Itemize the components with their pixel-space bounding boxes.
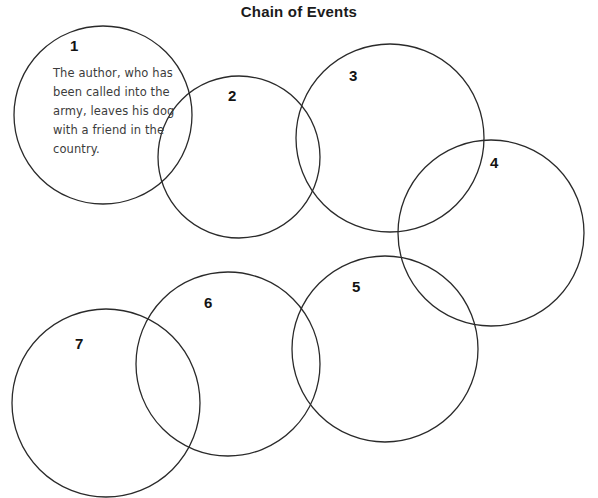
event-number-6: 6 <box>204 295 212 310</box>
event-number-3: 3 <box>349 68 357 83</box>
event-circle-5[interactable] <box>292 256 478 442</box>
event-number-2: 2 <box>228 88 236 103</box>
event-number-1: 1 <box>70 38 78 53</box>
event-circle-3[interactable] <box>296 44 484 232</box>
event-circle-6[interactable] <box>136 272 320 456</box>
event-number-7: 7 <box>75 336 83 351</box>
event-text-1[interactable]: The author, who has been called into the… <box>53 64 178 159</box>
event-number-5: 5 <box>352 279 360 294</box>
event-circle-2[interactable] <box>158 76 320 238</box>
chain-of-events-worksheet: Chain of Events 1234567 The author, who … <box>0 0 598 498</box>
event-number-4: 4 <box>490 155 498 170</box>
event-circle-7[interactable] <box>12 309 200 497</box>
